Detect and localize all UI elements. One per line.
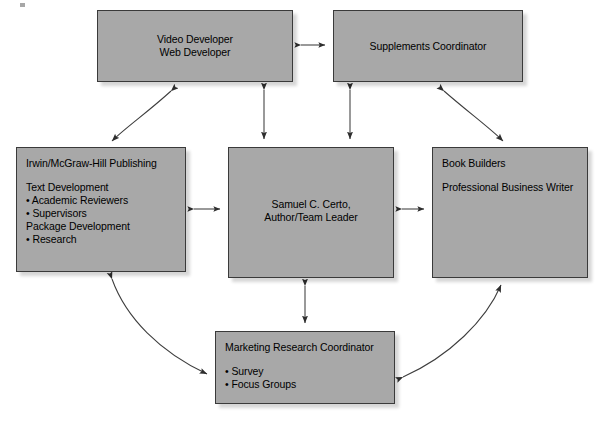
node-body-heading: Text Development bbox=[26, 181, 185, 194]
bullet-item: • Focus Groups bbox=[225, 378, 394, 391]
node-title: Irwin/McGraw-Hill Publishing bbox=[26, 157, 185, 170]
node-subtitle: Author/Team Leader bbox=[229, 211, 393, 224]
node-bullet-list-2: • Research bbox=[26, 233, 185, 246]
bullet-item: • Survey bbox=[225, 365, 394, 378]
node-title: Supplements Coordinator bbox=[334, 40, 522, 53]
node-body-heading-2: Package Development bbox=[26, 220, 185, 233]
node-bullet-list: • Survey • Focus Groups bbox=[225, 365, 394, 391]
diagram-canvas: Video Developer Web Developer Supplement… bbox=[0, 0, 604, 428]
edge-supplements-to-book-builders-curve bbox=[444, 91, 503, 141]
node-samuel-certo-team-leader[interactable]: Samuel C. Certo, Author/Team Leader bbox=[228, 147, 394, 278]
node-title: Marketing Research Coordinator bbox=[225, 341, 394, 354]
edge-video-to-irwin-curve bbox=[112, 91, 171, 141]
node-subtitle: Web Developer bbox=[98, 46, 292, 59]
node-title: Samuel C. Certo, bbox=[229, 198, 393, 211]
spacer bbox=[442, 170, 587, 181]
scan-artifact-speck bbox=[20, 3, 25, 7]
node-video-web-developer[interactable]: Video Developer Web Developer bbox=[97, 10, 293, 82]
bullet-item: • Academic Reviewers bbox=[26, 194, 185, 207]
edge-irwin-to-marketing-curve bbox=[112, 279, 207, 374]
bullet-item: • Research bbox=[26, 233, 185, 246]
node-book-builders[interactable]: Book Builders Professional Business Writ… bbox=[432, 147, 588, 278]
spacer bbox=[26, 170, 185, 181]
bullet-item: • Supervisors bbox=[26, 207, 185, 220]
node-subtitle: Professional Business Writer bbox=[442, 181, 587, 194]
node-marketing-research-coordinator[interactable]: Marketing Research Coordinator • Survey … bbox=[215, 331, 395, 404]
edge-marketing-to-book-builders-curve bbox=[403, 285, 501, 377]
node-bullet-list: • Academic Reviewers • Supervisors bbox=[26, 194, 185, 220]
spacer bbox=[225, 354, 394, 365]
node-supplements-coordinator[interactable]: Supplements Coordinator bbox=[333, 10, 523, 82]
node-irwin-mcgraw-hill-publishing[interactable]: Irwin/McGraw-Hill Publishing Text Develo… bbox=[16, 147, 186, 272]
node-title: Video Developer bbox=[98, 33, 292, 46]
node-title: Book Builders bbox=[442, 157, 587, 170]
